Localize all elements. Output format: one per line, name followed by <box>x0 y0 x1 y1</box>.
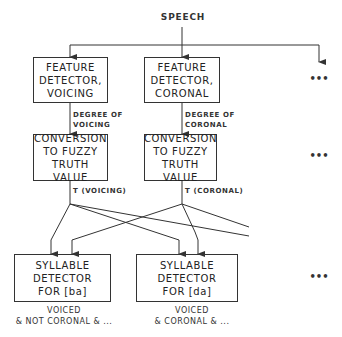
more-detectors-ellipsis: ••• <box>306 73 332 84</box>
syllable-detector-da-label: SYLLABLE DETECTOR FOR [da] <box>157 259 216 298</box>
da-condition-label: VOICED & CORONAL & ... <box>136 305 248 327</box>
truth-voicing-label: T (VOICING) <box>73 186 126 196</box>
feature-detector-coronal-box: FEATURE DETECTOR, CORONAL <box>144 57 220 103</box>
truth-coronal-label: T (CORONAL) <box>185 186 243 196</box>
degree-of-coronal-label: DEGREE OF CORONAL <box>185 110 235 130</box>
feature-detector-voicing-label: FEATURE DETECTOR, VOICING <box>39 61 102 100</box>
syllable-detector-ba-label: SYLLABLE DETECTOR FOR [ba] <box>33 259 92 298</box>
feature-detector-coronal-label: FEATURE DETECTOR, CORONAL <box>151 61 214 100</box>
speech-input-label: SPEECH <box>152 12 214 22</box>
syllable-detector-ba-box: SYLLABLE DETECTOR FOR [ba] <box>14 254 111 302</box>
conversion-coronal-label: CONVERSION TO FUZZY TRUTH VALUE <box>144 132 217 184</box>
conversion-voicing-label: CONVERSION TO FUZZY TRUTH VALUE <box>34 132 107 184</box>
more-syllables-ellipsis: ••• <box>306 271 332 282</box>
more-converters-ellipsis: ••• <box>306 150 332 161</box>
ba-condition-label: VOICED & NOT CORONAL & ... <box>8 305 120 327</box>
syllable-detector-da-box: SYLLABLE DETECTOR FOR [da] <box>136 254 238 302</box>
conversion-voicing-box: CONVERSION TO FUZZY TRUTH VALUE <box>33 134 108 181</box>
feature-detector-voicing-box: FEATURE DETECTOR, VOICING <box>33 57 108 103</box>
conversion-coronal-box: CONVERSION TO FUZZY TRUTH VALUE <box>144 134 217 181</box>
degree-of-voicing-label: DEGREE OF VOICING <box>73 110 123 130</box>
